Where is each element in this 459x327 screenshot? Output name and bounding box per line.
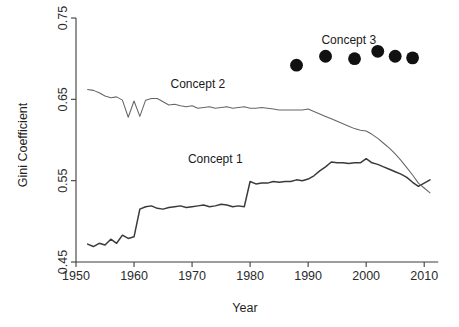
- series-label-1: Concept 1: [188, 152, 243, 166]
- x-tick-label: 2010: [410, 269, 438, 283]
- series-layer: [88, 45, 430, 247]
- x-tick-label: 1970: [178, 269, 206, 283]
- scatter-point: [290, 59, 303, 72]
- scatter-point: [389, 50, 402, 63]
- series-labels: Concept 1Concept 2Concept 3: [171, 33, 377, 166]
- x-tick-label: 1980: [236, 269, 264, 283]
- chart-figure: 0.450.550.650.75 19501960197019801990200…: [0, 0, 459, 327]
- line-chart-plot: 0.450.550.650.75 19501960197019801990200…: [0, 0, 459, 327]
- series-label-3: Concept 3: [321, 33, 376, 47]
- scatter-point: [319, 50, 332, 63]
- y-tick-label: 0.55: [56, 168, 70, 192]
- x-tick-label: 1960: [120, 269, 148, 283]
- y-axis-title: Gini Coefficient: [16, 102, 30, 187]
- x-axis-title: Year: [232, 301, 257, 315]
- series-line-2: [88, 90, 430, 193]
- y-axis: 0.450.550.650.75: [56, 6, 76, 274]
- y-tick-label: 0.75: [56, 6, 70, 30]
- scatter-point: [348, 52, 361, 65]
- scatter-point: [406, 51, 419, 64]
- x-axis: 1950196019701980199020002010: [62, 262, 438, 283]
- x-tick-label: 1990: [294, 269, 322, 283]
- series-line-1: [88, 159, 430, 247]
- x-tick-label: 2000: [352, 269, 380, 283]
- x-tick-label: 1950: [62, 269, 90, 283]
- series-label-2: Concept 2: [171, 77, 226, 91]
- y-tick-label: 0.65: [56, 87, 70, 111]
